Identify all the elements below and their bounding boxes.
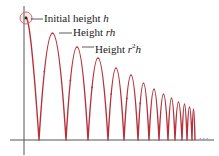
label-initial-height: Initial height h <box>44 13 109 24</box>
label-variable-suffix: h <box>135 43 141 55</box>
direction-marker <box>44 71 46 73</box>
label-variable: rh <box>106 26 116 38</box>
bouncing-ball-diagram: Initial height h Height rh Height r2h ..… <box>0 0 219 156</box>
label-text: Height <box>95 43 128 55</box>
initial-point-dot <box>25 17 28 20</box>
label-height-rh: Height rh <box>73 27 115 38</box>
label-text: Height <box>73 26 106 38</box>
direction-marker <box>110 93 112 95</box>
direction-marker <box>91 87 93 89</box>
label-text: Initial height <box>44 12 103 24</box>
label-height-r2h: Height r2h <box>95 41 141 55</box>
direction-marker <box>126 98 128 100</box>
label-variable: h <box>103 12 109 24</box>
continuation-ellipsis: ... <box>199 131 210 141</box>
direction-marker <box>139 103 141 105</box>
direction-marker <box>70 80 72 82</box>
bounce-plot <box>0 0 219 156</box>
